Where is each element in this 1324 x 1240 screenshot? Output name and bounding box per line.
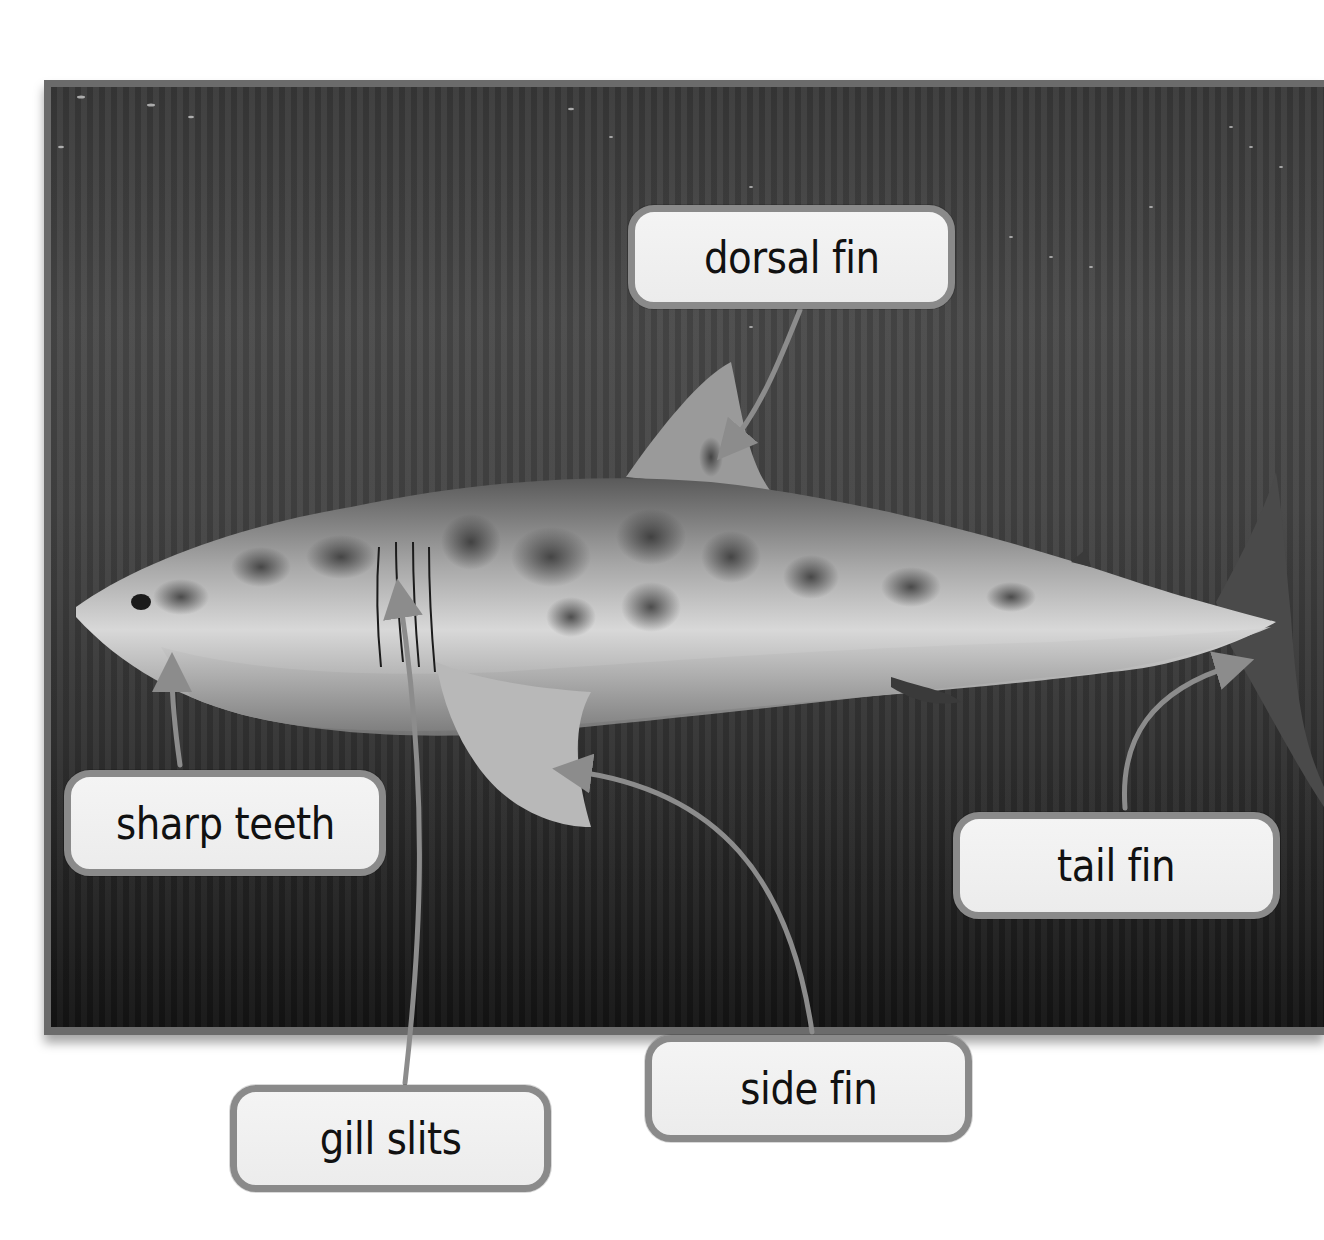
label-sharp-teeth: sharp teeth	[64, 770, 386, 876]
label-gill-slits: gill slits	[230, 1085, 551, 1192]
shark-eye	[131, 594, 151, 610]
label-tail-fin-text: tail fin	[1057, 840, 1175, 891]
label-dorsal-fin: dorsal fin	[628, 205, 955, 309]
label-sharp-teeth-text: sharp teeth	[116, 798, 335, 849]
label-gill-slits-text: gill slits	[320, 1113, 462, 1164]
label-side-fin: side fin	[645, 1035, 972, 1142]
label-side-fin-text: side fin	[740, 1063, 877, 1114]
label-dorsal-fin-text: dorsal fin	[704, 232, 880, 283]
label-tail-fin: tail fin	[953, 812, 1280, 919]
dorsal-fin-shape	[626, 362, 771, 492]
